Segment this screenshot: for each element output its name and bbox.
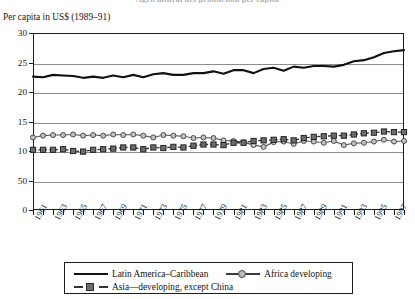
figure-root: Agricultural net production per capita P… (0, 0, 415, 299)
plot-area (33, 33, 404, 210)
gridline (34, 64, 403, 65)
gridline (34, 152, 403, 153)
legend-item-asia[interactable]: Asia—developing, except China (74, 280, 233, 294)
y-axis-tick-mark (29, 181, 33, 182)
y-axis-tick-label: 15 (3, 117, 27, 127)
y-axis-tick-mark (29, 151, 33, 152)
y-axis-tick-label: 10 (3, 146, 27, 156)
y-axis-caption: Per capita in US$ (1989–91) (3, 12, 110, 22)
legend-row-secondary: Asia—developing, except China (74, 280, 233, 294)
legend-row-primary: Latin America–Caribbean Africa developin… (74, 267, 332, 281)
legend-swatch-solid-line-icon (74, 268, 108, 280)
legend-label-latin-america: Latin America–Caribbean (112, 269, 208, 279)
legend-swatch-square-marker-icon (74, 281, 108, 293)
legend-item-africa[interactable]: Africa developing (226, 267, 331, 281)
legend-item-latin-america[interactable]: Latin America–Caribbean (74, 267, 208, 281)
legend-label-africa: Africa developing (264, 269, 331, 279)
gridline (34, 93, 403, 94)
y-axis-tick-mark (29, 33, 33, 34)
y-axis-tick-label: 20 (3, 87, 27, 97)
gridline (34, 182, 403, 183)
y-axis-tick-label: 30 (3, 28, 27, 38)
y-axis-tick-label: 0 (3, 205, 27, 215)
y-axis-tick-mark (29, 122, 33, 123)
figure-title-cropped: Agricultural net production per capita (0, 0, 415, 3)
legend-swatch-circle-marker-icon (226, 268, 260, 280)
y-axis-tick-label: 50 (3, 176, 27, 186)
gridline (34, 123, 403, 124)
y-axis-tick-label: 25 (3, 58, 27, 68)
legend-label-asia: Asia—developing, except China (112, 282, 233, 292)
y-axis-tick-mark (29, 63, 33, 64)
y-axis-tick-mark (29, 92, 33, 93)
legend: Latin America–Caribbean Africa developin… (64, 262, 353, 294)
